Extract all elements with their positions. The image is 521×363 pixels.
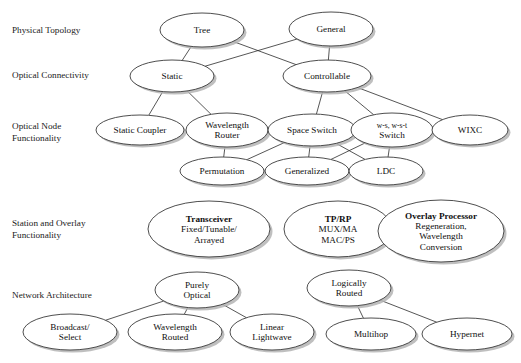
diagram-canvas: TreeGeneralStaticControllableStatic Coup…	[0, 0, 521, 363]
node-label-multihop-line-0: Multihop	[354, 329, 389, 339]
node-label-wavelength-routed-line-0: Wavelength	[153, 322, 197, 332]
edge-static-to-static-coupler	[149, 92, 163, 116]
node-controllable[interactable]: Controllable	[283, 60, 374, 95]
node-label-broadcast-select-line-1: Select	[59, 332, 82, 342]
edge-controllable-to-ws-wst-switch	[345, 91, 374, 115]
node-label-permutation-line-0: Permutation	[200, 166, 245, 176]
nodes-layer: TreeGeneralStaticControllableStatic Coup…	[23, 12, 515, 353]
node-label-broadcast-select-line-0: Broadcast/	[50, 322, 90, 332]
node-label-purely-optical-line-1: Optical	[183, 290, 210, 300]
node-label-linear-lightwave-line-1: Lightwave	[252, 332, 291, 342]
node-wixc[interactable]: WIXC	[432, 115, 511, 148]
node-static-coupler[interactable]: Static Coupler	[96, 115, 187, 148]
node-broadcast-select[interactable]: Broadcast/Select	[23, 314, 120, 353]
node-label-hypernet-line-0: Hypernet	[450, 329, 485, 339]
node-general[interactable]: General	[289, 12, 376, 49]
node-wavelength-routed[interactable]: WavelengthRouted	[128, 314, 225, 353]
node-label-wixc-line-0: WIXC	[458, 125, 483, 135]
row-station-overlay-functionality-line-1: Functionality	[12, 230, 61, 240]
node-label-space-switch-line-0: Space Switch	[287, 125, 337, 135]
row-optical-connectivity-line-0: Optical Connectivity	[12, 70, 89, 80]
node-label-ldc-line-0: LDC	[377, 166, 395, 176]
node-label-transceiver-line-0: Transceiver	[186, 214, 232, 224]
node-label-overlay-processor-line-0: Overlay Processor	[405, 211, 477, 221]
node-label-wavelength-router-line-1: Router	[214, 130, 239, 140]
node-label-wavelength-router-line-0: Wavelength	[205, 120, 249, 130]
row-network-architecture-line-0: Network Architecture	[12, 290, 92, 300]
node-label-transceiver-line-1: Fixed/Tunable/	[181, 224, 237, 234]
node-label-logically-routed-line-0: Logically	[331, 278, 367, 288]
node-label-tp-rp-line-1: MUX/MA	[319, 224, 358, 234]
node-logically-routed[interactable]: LogicallyRouted	[307, 270, 394, 309]
node-label-transceiver-line-2: Arrayed	[194, 235, 225, 245]
edge-tree-to-static	[182, 46, 191, 60]
node-label-generalized-line-0: Generalized	[285, 166, 330, 176]
node-label-controllable-line-0: Controllable	[304, 71, 350, 81]
node-static[interactable]: Static	[130, 60, 217, 95]
node-multihop[interactable]: Multihop	[326, 318, 419, 353]
node-label-overlay-processor-line-2: Wavelength	[419, 231, 463, 241]
node-hypernet[interactable]: Hypernet	[422, 318, 515, 353]
node-ldc[interactable]: LDC	[349, 157, 426, 188]
edge-tree-to-controllable	[233, 41, 296, 64]
node-label-overlay-processor-line-3: Conversion	[420, 242, 463, 252]
row-optical-node-functionality-line-0: Optical Node	[12, 121, 61, 131]
node-label-logically-routed-line-1: Routed	[336, 288, 363, 298]
node-label-overlay-processor-line-1: Regeneration,	[415, 221, 466, 231]
node-label-static-line-0: Static	[162, 71, 183, 81]
row-labels-layer: Physical TopologyOptical ConnectivityOpt…	[12, 25, 92, 300]
node-transceiver[interactable]: TransceiverFixed/Tunable/Arrayed	[148, 201, 273, 260]
node-label-purely-optical-line-0: Purely	[185, 280, 209, 290]
row-optical-node-functionality-line-1: Functionality	[12, 133, 61, 143]
node-label-ws-wst-switch-line-0: w-s, w-s-t	[377, 121, 408, 130]
node-label-static-coupler-line-0: Static Coupler	[114, 125, 167, 135]
node-overlay-processor[interactable]: Overlay ProcessorRegeneration,Wavelength…	[378, 200, 507, 265]
edge-controllable-to-space-switch	[316, 92, 322, 114]
node-label-linear-lightwave-line-0: Linear	[260, 322, 284, 332]
row-station-overlay-functionality-line-0: Station and Overlay	[12, 218, 86, 228]
edge-static-to-wavelength-router	[187, 91, 211, 114]
node-space-switch[interactable]: Space Switch	[268, 114, 359, 149]
taxonomy-diagram-page: TreeGeneralStaticControllableStatic Coup…	[0, 0, 521, 363]
node-linear-lightwave[interactable]: LinearLightwave	[230, 314, 317, 353]
node-label-tp-rp-line-0: TP/RP	[325, 214, 352, 224]
node-label-wavelength-routed-line-1: Routed	[162, 332, 189, 342]
node-label-tp-rp-line-2: MAC/PS	[321, 235, 355, 245]
node-purely-optical[interactable]: PurelyOptical	[155, 272, 242, 311]
node-label-tree-line-0: Tree	[194, 25, 211, 35]
row-physical-topology-line-0: Physical Topology	[12, 25, 81, 35]
edge-space-switch-to-ldc	[336, 143, 365, 159]
node-label-general-line-0: General	[316, 24, 346, 34]
node-permutation[interactable]: Permutation	[180, 157, 267, 188]
node-generalized[interactable]: Generalized	[265, 157, 352, 188]
node-wavelength-router[interactable]: WavelengthRouter	[186, 113, 271, 150]
node-label-ws-wst-switch-line-1: Switch	[379, 130, 405, 140]
node-tree[interactable]: Tree	[160, 13, 247, 50]
